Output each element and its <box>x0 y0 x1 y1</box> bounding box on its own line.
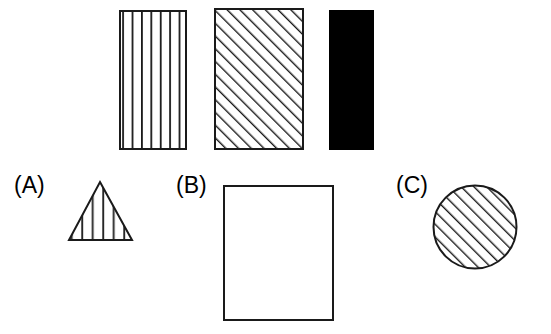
choice-c-label: (C) <box>396 174 428 197</box>
swatch-diagonal-hatch-body <box>215 9 303 149</box>
shape-b-rectangle <box>224 186 333 320</box>
shape-b-rectangle-svg <box>220 182 340 327</box>
choice-b-label: (B) <box>176 174 207 197</box>
shape-a-triangle <box>69 182 132 240</box>
shape-a-triangle-svg <box>60 175 142 247</box>
pattern-swatch-row-svg <box>0 0 551 160</box>
shape-c-circle-svg <box>428 180 524 276</box>
swatch-diagonal-hatch <box>215 9 303 149</box>
swatch-solid-black <box>330 11 373 149</box>
choice-c-shape-container <box>428 180 524 276</box>
swatch-solid-black-body <box>330 11 373 149</box>
swatch-vertical-lines-body <box>120 11 186 149</box>
figure-canvas: (A) (B) (C) <box>0 0 551 334</box>
choice-a-shape-container <box>60 175 142 247</box>
choice-a-label: (A) <box>14 174 45 197</box>
shape-c-circle <box>434 186 517 269</box>
swatch-vertical-lines <box>120 11 186 149</box>
choice-b-shape-container <box>220 182 340 327</box>
pattern-swatch-row <box>0 0 551 160</box>
